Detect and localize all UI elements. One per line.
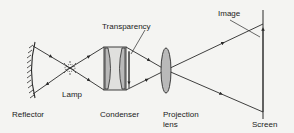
optics-drawing: [0, 0, 294, 133]
lamp-bulb: [64, 61, 76, 75]
transparency-label: Transparency: [102, 22, 151, 31]
projection-label-line2: lens: [163, 120, 178, 129]
lamp-label: Lamp: [62, 90, 82, 99]
condenser-label: Condenser: [100, 110, 139, 119]
projected-image: [230, 20, 263, 112]
projection-lens: [161, 48, 171, 93]
image-label: Image: [218, 9, 240, 18]
reflector-label: Reflector: [12, 110, 44, 119]
transparency-slide: [129, 30, 145, 88]
condenser-lenses: [104, 47, 126, 90]
projector-diagram: Reflector Lamp Condenser Transparency Pr…: [0, 0, 294, 133]
projection-label-line1: Projection: [163, 110, 199, 119]
screen-label: Screen: [252, 120, 277, 129]
reflector-mirror: [27, 42, 35, 98]
